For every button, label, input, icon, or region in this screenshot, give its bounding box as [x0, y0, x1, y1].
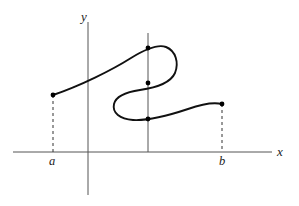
y-axis-label: y [79, 9, 87, 24]
intersection-point-middle [146, 81, 151, 86]
function-curve [53, 46, 222, 120]
curve-start-point [51, 93, 56, 98]
intersection-point-top [146, 46, 151, 51]
x-axis-label: x [276, 144, 283, 159]
tick-label-a: a [49, 154, 55, 168]
curve-end-point [220, 102, 225, 107]
intersection-point-bottom [146, 117, 151, 122]
tick-label-b: b [219, 154, 225, 168]
figure-svg: x y a b [0, 0, 299, 206]
figure-canvas: x y a b [0, 0, 299, 206]
